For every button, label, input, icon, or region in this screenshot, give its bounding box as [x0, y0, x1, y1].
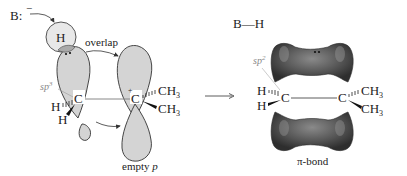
wedge-bond-ch3: [142, 101, 157, 109]
hashed-bond-h: [269, 90, 278, 96]
methyl-1-product: CH3: [361, 83, 383, 100]
right-panel-product: B—H sp2 C C H H: [233, 16, 383, 167]
hybrid-label-sp2: sp2: [253, 54, 266, 66]
hybrid-label-sp3: sp3: [40, 80, 53, 92]
carbon-right-product: C: [338, 90, 347, 105]
sp3-orbital-lobe-small: [79, 124, 90, 140]
lobe-highlight: [279, 120, 289, 136]
methyl-1: CH3: [158, 83, 180, 100]
substituent-h-2: H: [58, 112, 67, 127]
mechanism-diagram: B: − H overlap sp3 C C +: [0, 0, 407, 176]
hydrogen-label: H: [56, 30, 65, 45]
electron-dot: [314, 51, 316, 53]
lobe-highlight: [335, 46, 345, 62]
pi-bond-label: π-bond: [297, 155, 329, 167]
overlap-arrow: [86, 51, 118, 56]
electron-dot: [69, 52, 71, 54]
substituent-h-1: H: [257, 83, 266, 98]
methyl-2: CH3: [158, 101, 180, 118]
hashed-bond-ch3: [349, 90, 358, 97]
reaction-arrow: [205, 94, 234, 99]
substituent-h-2: H: [257, 98, 266, 113]
wedge-bond-ch3: [348, 100, 362, 109]
base-charge: −: [26, 2, 32, 14]
curved-arrow-to-p: [96, 122, 120, 127]
product-bh-label: B—H: [233, 16, 264, 31]
empty-p-label: empty p: [122, 160, 158, 172]
overlap-label: overlap: [85, 36, 118, 48]
curved-arrow-base-to-h: [30, 14, 54, 22]
methyl-2-product: CH3: [361, 101, 383, 118]
left-panel-reactant: B: − H overlap sp3 C C +: [10, 2, 180, 172]
lobe-highlight: [279, 46, 289, 62]
carbon-left: C: [74, 91, 83, 106]
p-orbital-lower-lobe: [122, 104, 152, 161]
sp3-orbital-lobe-large: [57, 47, 90, 119]
lobe-highlight: [335, 120, 345, 136]
wedge-bond-h: [268, 100, 281, 106]
carbon-left-product: C: [281, 90, 290, 105]
electron-dot: [65, 53, 67, 55]
carbocation-charge: +: [128, 86, 133, 95]
base-label: B:: [10, 8, 22, 23]
electron-dot: [318, 51, 320, 53]
